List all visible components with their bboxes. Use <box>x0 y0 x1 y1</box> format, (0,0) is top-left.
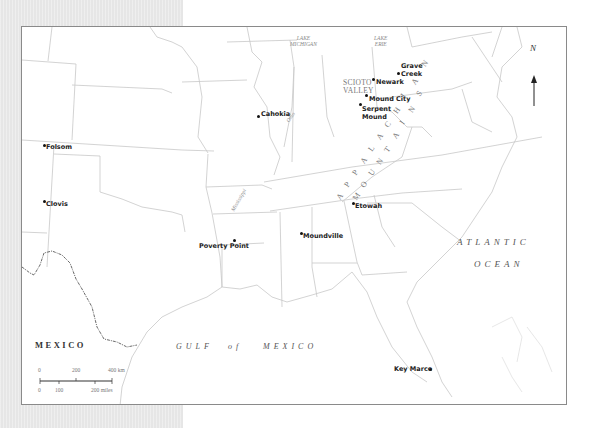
north-arrow-icon <box>531 75 537 106</box>
atlantic-ocean-label-line2: OCEAN <box>474 259 524 269</box>
gulf-label-mexico: MEXICO <box>263 342 317 351</box>
gulf-label-of: of <box>228 342 242 351</box>
site-dot-cahokia <box>257 115 260 118</box>
scale-km-0: 0 <box>38 367 41 373</box>
site-moundville: Moundville <box>303 233 343 241</box>
site-clovis: Clovis <box>46 201 68 209</box>
mexico-border <box>22 251 137 347</box>
atlantic-ocean-label-line1: ATLANTIC <box>457 237 530 247</box>
site-newark: Newark <box>376 79 404 87</box>
site-serpent-mound: Serpent Mound <box>362 106 391 121</box>
gulf-label-gulf: GULF <box>176 342 213 351</box>
lake-michigan-label: LAKE MICHIGAN <box>290 35 317 47</box>
site-etowah: Etowah <box>355 203 382 211</box>
site-key-marco: Key Marco <box>394 366 432 374</box>
site-folsom: Folsom <box>46 144 72 152</box>
region-scioto-valley: SCIOTO VALLEY <box>343 79 374 95</box>
site-dot-grave-creek <box>397 72 400 75</box>
lake-erie-label: LAKE ERIE <box>374 35 387 47</box>
scale-mi-100: 100 <box>55 387 63 393</box>
map-frame: N Cahokia Folsom Clovis Poverty Point Mo… <box>21 26 567 405</box>
scale-mi-0: 0 <box>38 387 41 393</box>
scale-km-200: 200 <box>72 367 80 373</box>
scale-mi-200: 200 miles <box>91 387 113 393</box>
scale-km-400: 400 km <box>108 367 125 373</box>
north-label: N <box>530 43 536 53</box>
country-mexico-label: MEXICO <box>35 340 86 350</box>
scale-bar <box>40 378 112 384</box>
site-poverty-point: Poverty Point <box>199 243 249 251</box>
